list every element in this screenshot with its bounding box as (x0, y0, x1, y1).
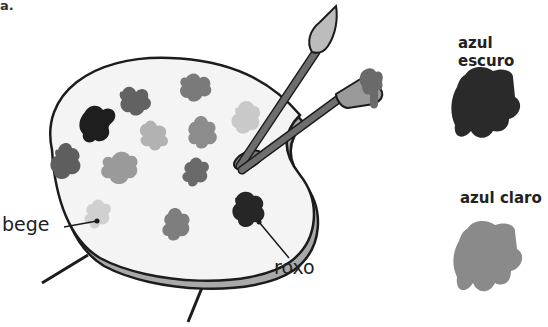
swatch-azul-escuro (451, 67, 520, 138)
label-roxo: roxo (274, 256, 315, 278)
easel-leg-left (42, 255, 88, 283)
swatch-title-azul-escuro: azul escuro (458, 34, 548, 70)
bege-leader-dot (95, 219, 100, 224)
roxo-leader-dot (257, 220, 262, 225)
label-bege: bege (2, 213, 50, 235)
swatch-title-azul-claro: azul claro (460, 189, 542, 207)
swatch-azul-claro (453, 221, 522, 291)
